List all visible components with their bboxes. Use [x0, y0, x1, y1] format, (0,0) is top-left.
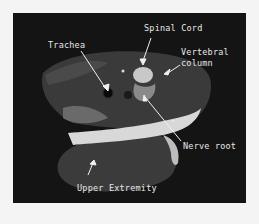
- vertebral-column-label-line2: column: [181, 58, 213, 68]
- upper-extremity-label: Upper Extremity: [77, 183, 157, 193]
- nerve-root-label: Nerve root: [183, 141, 236, 151]
- vertebral-column-label-line1: Vertebral: [181, 47, 229, 57]
- trachea-label: Trachea: [48, 40, 85, 50]
- spinal-cord-label: Spinal Cord: [144, 23, 203, 33]
- mri-image-panel: Spinal Cord Trachea Vertebral column Ner…: [13, 13, 246, 203]
